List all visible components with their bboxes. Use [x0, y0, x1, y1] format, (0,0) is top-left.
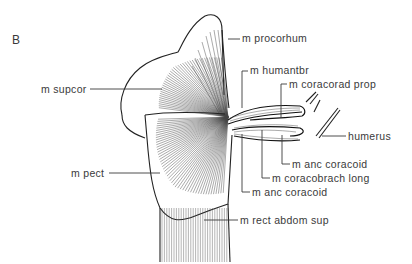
label-anc-coracoid-1: m anc coracoid [292, 158, 367, 170]
label-humantbr: m humantbr [250, 64, 309, 76]
label-anc-coracoid-2: m anc coracoid [252, 186, 327, 198]
supcor-muscle [159, 57, 228, 117]
label-coracobrach-long: m coracobrach long [272, 172, 370, 184]
anatomical-figure: B [0, 0, 412, 264]
humeral-tendons [228, 92, 340, 141]
label-rect-abdom-sup: m rect abdom sup [240, 214, 329, 226]
pect-muscle [156, 117, 228, 194]
label-pect: m pect [71, 167, 104, 179]
label-procorhum: m procorhum [242, 32, 307, 44]
bone-outline-lower [122, 115, 145, 138]
panel-label: B [12, 33, 20, 47]
label-humerus: humerus [348, 130, 391, 142]
label-coracorad-prop: m coracorad prop [289, 78, 376, 90]
label-supcor: m supcor [41, 83, 87, 95]
